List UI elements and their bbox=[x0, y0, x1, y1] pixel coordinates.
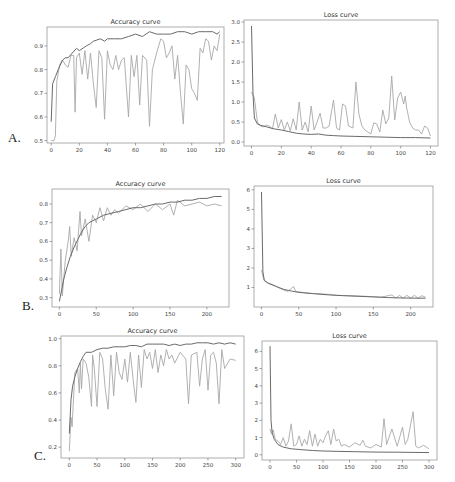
y-tick-label: 2 bbox=[255, 417, 259, 423]
y-tick-label: 3.0 bbox=[231, 19, 240, 25]
training-curves-figure: Accuracy curve0204060801001200.50.60.70.… bbox=[0, 0, 455, 482]
y-tick-label: 1 bbox=[247, 284, 251, 290]
x-tick-label: 80 bbox=[160, 147, 167, 153]
train-line bbox=[270, 346, 429, 452]
x-tick-label: 150 bbox=[165, 311, 176, 317]
chart-title: Loss curve bbox=[324, 11, 359, 19]
x-tick-label: 0 bbox=[268, 464, 272, 470]
y-tick-label: 0.6 bbox=[39, 238, 48, 244]
y-tick-label: 0.4 bbox=[39, 276, 48, 282]
x-tick-label: 60 bbox=[132, 147, 139, 153]
chart-title: Loss curve bbox=[326, 177, 361, 185]
y-tick-label: 0 bbox=[255, 452, 259, 458]
x-tick-label: 80 bbox=[367, 150, 374, 156]
chart-title: Accuracy curve bbox=[116, 180, 166, 188]
y-tick-label: 3 bbox=[255, 400, 259, 406]
val-line bbox=[262, 270, 426, 298]
x-tick-label: 0 bbox=[49, 147, 53, 153]
x-tick-label: 150 bbox=[147, 462, 158, 468]
chart-title: Accuracy curve bbox=[111, 18, 161, 26]
x-tick-label: 0 bbox=[58, 311, 62, 317]
x-tick-label: 50 bbox=[93, 311, 100, 317]
x-tick-label: 200 bbox=[175, 462, 186, 468]
x-tick-label: 120 bbox=[215, 147, 226, 153]
val-line bbox=[51, 34, 220, 141]
y-tick-label: 0.5 bbox=[39, 257, 48, 263]
y-tick-label: 0.7 bbox=[34, 90, 43, 96]
y-tick-label: 4 bbox=[255, 383, 259, 389]
y-tick-label: 1.0 bbox=[231, 99, 240, 105]
x-tick-label: 40 bbox=[104, 147, 111, 153]
chart-B-loss: Loss curve050100150200123456 bbox=[247, 177, 434, 317]
x-tick-label: 50 bbox=[94, 462, 101, 468]
val-line bbox=[59, 200, 221, 296]
train-line bbox=[51, 32, 220, 122]
y-tick-label: 0.9 bbox=[34, 43, 43, 49]
val-line bbox=[252, 76, 431, 136]
y-tick-label: 0.0 bbox=[231, 139, 240, 145]
train-line bbox=[262, 192, 426, 298]
y-tick-label: 1.5 bbox=[231, 79, 240, 85]
y-tick-label: 2.5 bbox=[231, 39, 240, 45]
x-tick-label: 50 bbox=[295, 311, 302, 317]
y-tick-label: 0.6 bbox=[34, 114, 43, 120]
y-tick-label: 0.3 bbox=[39, 295, 48, 301]
x-tick-label: 50 bbox=[293, 464, 300, 470]
y-tick-label: 5 bbox=[255, 366, 259, 372]
x-tick-label: 100 bbox=[186, 147, 197, 153]
y-tick-label: 0.7 bbox=[39, 220, 48, 226]
y-tick-label: 3 bbox=[247, 245, 251, 251]
chart-C-accuracy: Accuracy curve0501001502002503000.20.40.… bbox=[48, 327, 244, 468]
y-tick-label: 0.2 bbox=[48, 444, 57, 450]
plot-frame bbox=[61, 336, 244, 458]
plot-frame bbox=[47, 27, 224, 143]
train-line bbox=[252, 26, 431, 138]
y-tick-label: 4 bbox=[247, 226, 251, 232]
chart-title: Loss curve bbox=[332, 332, 367, 340]
x-tick-label: 20 bbox=[76, 147, 83, 153]
x-tick-label: 200 bbox=[202, 311, 213, 317]
y-tick-label: 2 bbox=[247, 265, 251, 271]
y-tick-label: 0.5 bbox=[34, 138, 43, 144]
x-tick-label: 200 bbox=[405, 311, 416, 317]
x-tick-label: 20 bbox=[278, 150, 285, 156]
y-tick-label: 0.8 bbox=[34, 67, 43, 73]
x-tick-label: 40 bbox=[308, 150, 315, 156]
chart-A-accuracy: Accuracy curve0204060801001200.50.60.70.… bbox=[34, 18, 225, 153]
x-tick-label: 250 bbox=[397, 464, 408, 470]
x-tick-label: 300 bbox=[230, 462, 241, 468]
y-tick-label: 2.0 bbox=[231, 59, 240, 65]
chart-A-loss: Loss curve0204060801001200.00.51.01.52.0… bbox=[231, 11, 438, 156]
chart-C-loss: Loss curve0501001502002503000123456 bbox=[255, 332, 438, 470]
x-tick-label: 300 bbox=[424, 464, 435, 470]
x-tick-label: 100 bbox=[331, 311, 342, 317]
y-tick-label: 1.0 bbox=[48, 336, 57, 342]
y-tick-label: 0.5 bbox=[231, 119, 240, 125]
x-tick-label: 0 bbox=[260, 311, 264, 317]
chart-title: Accuracy curve bbox=[128, 327, 178, 335]
x-tick-label: 150 bbox=[368, 311, 379, 317]
x-tick-label: 100 bbox=[318, 464, 329, 470]
y-tick-label: 0.8 bbox=[39, 201, 48, 207]
x-tick-label: 0 bbox=[250, 150, 254, 156]
val-line bbox=[69, 350, 235, 452]
x-tick-label: 100 bbox=[128, 311, 139, 317]
y-tick-label: 6 bbox=[247, 187, 251, 193]
chart-B-accuracy: Accuracy curve0501001502000.30.40.50.60.… bbox=[39, 180, 229, 317]
x-tick-label: 100 bbox=[395, 150, 406, 156]
y-tick-label: 1 bbox=[255, 435, 259, 441]
x-tick-label: 250 bbox=[203, 462, 214, 468]
y-tick-label: 6 bbox=[255, 348, 259, 354]
x-tick-label: 120 bbox=[425, 150, 436, 156]
plot-frame bbox=[52, 189, 229, 307]
x-tick-label: 0 bbox=[68, 462, 72, 468]
x-tick-label: 150 bbox=[344, 464, 355, 470]
y-tick-label: 0.4 bbox=[48, 417, 57, 423]
train-line bbox=[59, 197, 221, 302]
x-tick-label: 200 bbox=[371, 464, 382, 470]
val-line bbox=[270, 412, 429, 449]
y-tick-label: 0.6 bbox=[48, 390, 57, 396]
x-tick-label: 60 bbox=[338, 150, 345, 156]
x-tick-label: 100 bbox=[120, 462, 131, 468]
y-tick-label: 5 bbox=[247, 206, 251, 212]
